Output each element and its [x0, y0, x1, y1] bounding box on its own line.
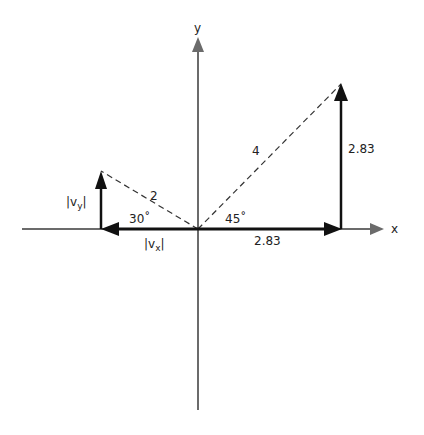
right-y-component-arrowhead: [334, 83, 348, 101]
left-x-component-label: |vx|: [144, 238, 165, 253]
right-angle-label: 45˚: [225, 213, 246, 225]
left-magnitude-label: 2: [150, 190, 158, 202]
vector-right-dashed: [198, 84, 341, 229]
right-x-component-arrowhead: [324, 222, 342, 236]
x-axis-label: x: [391, 223, 398, 235]
right-magnitude-label: 4: [252, 145, 260, 157]
right-x-component-label: 2.83: [254, 235, 281, 247]
x-axis-arrowhead: [370, 223, 384, 235]
left-y-component-arrowhead: [95, 171, 107, 189]
left-y-component-label: |vy|: [66, 196, 87, 211]
y-axis-arrowhead: [192, 37, 204, 52]
vector-diagram: [0, 0, 424, 435]
left-angle-label: 30˚: [129, 213, 150, 225]
right-y-component-label: 2.83: [348, 143, 375, 155]
left-x-component-arrowhead: [101, 222, 119, 236]
y-axis-label: y: [194, 22, 201, 34]
